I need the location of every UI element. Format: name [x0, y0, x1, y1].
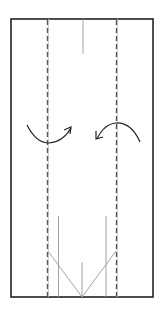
- paper-outline: [11, 19, 153, 297]
- origami-diagram: [0, 0, 159, 316]
